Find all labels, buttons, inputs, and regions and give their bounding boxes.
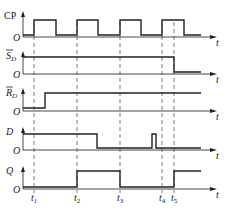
signal-name: RD [5,87,17,100]
signal-q: tOQ [6,165,219,200]
time-marker-label: t2 [74,192,81,205]
y-axis-arrow-icon [21,127,25,133]
time-marker-label: t5 [171,192,178,205]
time-axis-label: t [216,189,219,200]
time-marker-label: t4 [159,192,166,205]
origin-label: O [13,145,20,156]
waveform [23,171,201,187]
y-axis-arrow-icon [21,11,25,17]
time-marker-lines [34,22,174,193]
signal-name: SD [6,50,16,63]
y-axis-arrow-icon [21,51,25,57]
signal-s-d: tOSD [6,50,219,85]
signal-d: tOD [5,126,219,161]
time-axis-label: t [216,37,219,48]
y-axis-arrow-icon [21,166,25,172]
time-axis-label: t [216,150,219,161]
origin-label: O [13,106,20,117]
signal-name: D [5,126,14,137]
y-axis-arrow-icon [21,88,25,94]
signal-cp: tOCP [4,10,219,48]
waveform [23,57,201,72]
time-marker-label: t1 [31,192,38,205]
timing-diagram: tOCPtOSDtORDtODtOQt1t2t3t4t5 [0,0,231,211]
time-marker-labels: t1t2t3t4t5 [31,192,178,205]
signal-name: CP [4,10,17,21]
origin-label: O [13,32,20,43]
signal-name: Q [6,165,14,176]
origin-label: O [13,69,20,80]
time-axis-label: t [216,111,219,122]
time-marker-label: t3 [117,192,124,205]
signal-r-d: tORD [5,87,219,122]
time-axis-label: t [216,74,219,85]
origin-label: O [13,184,20,195]
